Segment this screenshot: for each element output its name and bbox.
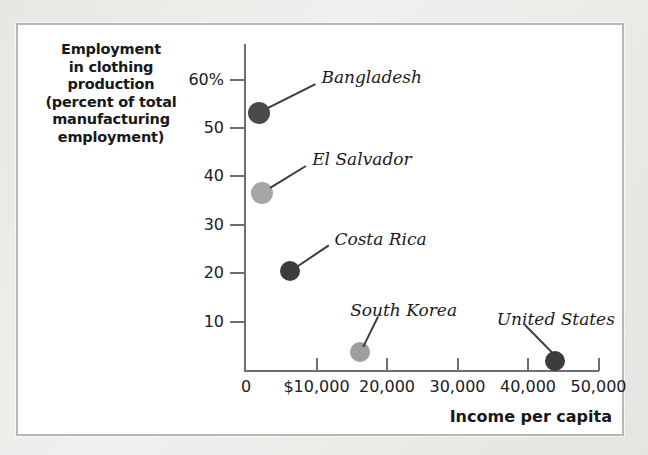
leader-line-south-korea bbox=[362, 316, 378, 347]
point-label-bangladesh: Bangladesh bbox=[321, 67, 422, 87]
x-axis-title: Income per capita bbox=[450, 407, 612, 426]
y-tick-50 bbox=[230, 127, 244, 129]
y-axis-caption-line-4: (percent of total bbox=[26, 94, 196, 112]
data-point-el-salvador[interactable] bbox=[251, 182, 273, 204]
y-tick-label-40: 40 bbox=[164, 166, 224, 185]
plot-area: Employment in clothing production (perce… bbox=[18, 25, 626, 438]
y-tick-40 bbox=[230, 175, 244, 177]
y-tick-label-30: 30 bbox=[164, 215, 224, 234]
data-point-bangladesh[interactable] bbox=[248, 102, 270, 124]
y-tick-label-60: 60% bbox=[164, 70, 224, 89]
point-label-south-korea: South Korea bbox=[350, 300, 457, 320]
x-tick-label-50000: 50,000 bbox=[549, 377, 648, 396]
x-axis-line bbox=[244, 370, 599, 372]
y-tick-label-10: 10 bbox=[164, 312, 224, 331]
y-axis-line bbox=[244, 44, 246, 371]
y-tick-label-20: 20 bbox=[164, 263, 224, 282]
point-label-el-salvador: El Salvador bbox=[312, 149, 411, 169]
x-tick-40000 bbox=[527, 358, 529, 371]
y-tick-label-50: 50 bbox=[164, 118, 224, 137]
leader-line-costa-rica bbox=[297, 245, 328, 267]
leader-line-united-states bbox=[524, 325, 555, 357]
y-tick-60 bbox=[230, 79, 244, 81]
x-tick-30000 bbox=[457, 358, 459, 371]
data-point-south-korea[interactable] bbox=[350, 342, 370, 362]
y-tick-10 bbox=[230, 321, 244, 323]
leader-line-el-salvador bbox=[270, 165, 307, 188]
figure-page: Employment in clothing production (perce… bbox=[0, 0, 648, 455]
x-tick-50000 bbox=[598, 358, 600, 371]
x-tick-10000 bbox=[316, 358, 318, 371]
leader-line-bangladesh bbox=[267, 84, 315, 109]
point-label-costa-rica: Costa Rica bbox=[334, 229, 426, 249]
point-label-united-states: United States bbox=[497, 309, 615, 329]
y-tick-30 bbox=[230, 224, 244, 226]
x-tick-20000 bbox=[386, 358, 388, 371]
y-tick-20 bbox=[230, 272, 244, 274]
chart-panel: Employment in clothing production (perce… bbox=[16, 23, 624, 436]
y-axis-caption-line-1: Employment bbox=[26, 41, 196, 59]
